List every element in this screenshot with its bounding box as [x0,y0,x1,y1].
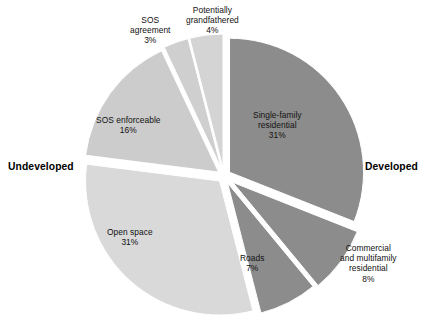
pie-slice-open-space[interactable] [86,164,253,315]
pie-chart-figure: Single-familyresidential31%Commercialand… [0,0,440,325]
group-annotation-undeveloped: Undeveloped [8,161,74,172]
group-annotation-developed: Developed [365,161,418,172]
